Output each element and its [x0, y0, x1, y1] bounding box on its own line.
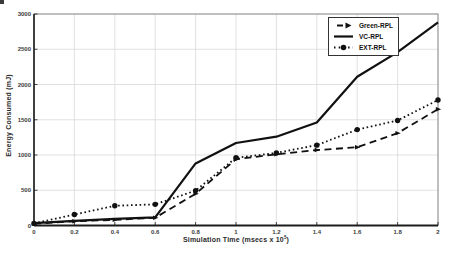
y-axis-label: Energy Consumed (mJ) — [5, 46, 12, 186]
marker-arrow-green-rpl — [315, 148, 320, 152]
marker-circle-ext-rpl — [31, 221, 36, 226]
legend-entry-green-rpl: Green-RPL — [333, 20, 393, 31]
legend: Green-RPL VC-RPL EXT-RPL — [328, 17, 399, 56]
x-axis-label: Simulation Time (msecs x 105) — [34, 235, 438, 243]
y-tick-label: 2500 — [18, 46, 32, 52]
x-axis-label-suffix: ) — [287, 236, 290, 243]
y-tick-label: 500 — [21, 187, 32, 193]
legend-label-vc-rpl: VC-RPL — [359, 33, 383, 40]
marker-circle-ext-rpl — [314, 142, 319, 147]
legend-label-ext-rpl: EXT-RPL — [359, 44, 386, 51]
marker-arrow-green-rpl — [395, 131, 400, 135]
marker-circle-ext-rpl — [435, 97, 440, 102]
marker-circle-ext-rpl — [112, 203, 117, 208]
dashed-arrow-line-icon — [333, 21, 355, 30]
y-tick-label: 1000 — [18, 152, 32, 158]
solid-line-icon — [333, 32, 355, 41]
legend-entry-ext-rpl: EXT-RPL — [333, 42, 393, 53]
marker-circle-ext-rpl — [233, 155, 238, 160]
marker-arrow-green-rpl — [436, 107, 441, 111]
y-tick-label: 1500 — [18, 117, 32, 123]
marker-circle-ext-rpl — [395, 118, 400, 123]
y-tick-label: 3000 — [18, 11, 32, 17]
dotted-circle-line-icon — [333, 43, 355, 52]
x-axis-label-text: Simulation Time (msecs x 10 — [183, 236, 284, 243]
marker-circle-ext-rpl — [274, 150, 279, 155]
y-tick-label: 0 — [28, 223, 32, 229]
marker-circle-ext-rpl — [355, 127, 360, 132]
marker-circle-ext-rpl — [153, 202, 158, 207]
legend-entry-vc-rpl: VC-RPL — [333, 31, 393, 42]
marker-circle-ext-rpl — [193, 188, 198, 193]
marker-circle-ext-rpl — [72, 212, 77, 217]
figure: 00.20.40.60.811.21.41.61.820500100015002… — [0, 0, 449, 253]
legend-label-green-rpl: Green-RPL — [359, 22, 393, 29]
y-tick-label: 2000 — [18, 82, 32, 88]
